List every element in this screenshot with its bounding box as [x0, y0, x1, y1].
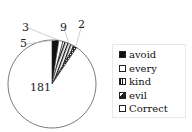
legend-item-evil: evil	[119, 89, 185, 103]
legend: avoid every kind evil Correct	[112, 44, 186, 118]
legend-label: avoid	[129, 49, 156, 60]
legend-item-every: every	[119, 62, 185, 76]
legend-label: every	[129, 63, 157, 74]
swatch-correct	[119, 105, 126, 112]
data-label-evil: 2	[78, 18, 85, 31]
legend-label: Correct	[129, 103, 168, 114]
legend-item-correct: Correct	[119, 102, 185, 116]
legend-item-avoid: avoid	[119, 48, 185, 62]
swatch-avoid	[119, 51, 126, 58]
data-label-kind: 9	[60, 21, 67, 34]
pie-slices	[8, 40, 96, 128]
pie-chart: 5392181	[0, 0, 110, 132]
data-label-correct: 181	[30, 81, 51, 94]
data-label-every: 3	[22, 21, 29, 34]
swatch-every	[119, 65, 126, 72]
legend-label: evil	[129, 90, 147, 101]
swatch-kind	[119, 78, 126, 85]
legend-label: kind	[129, 76, 151, 87]
data-label-avoid: 5	[20, 37, 27, 50]
swatch-evil	[119, 92, 126, 99]
slice-correct	[8, 40, 96, 128]
legend-item-kind: kind	[119, 75, 185, 89]
